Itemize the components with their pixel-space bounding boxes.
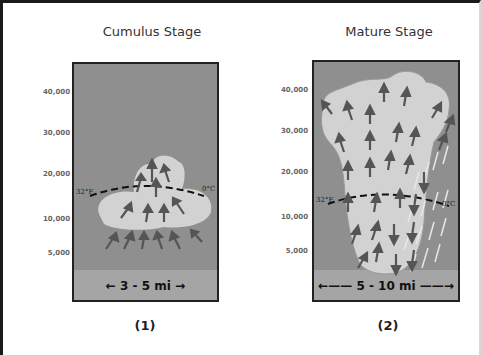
altitude-label-40000: 40,000: [268, 86, 308, 94]
freezing-label-c: 0°C: [442, 200, 455, 208]
altitude-label-10000: 10,000: [30, 215, 70, 223]
freezing-label-f: 32°F: [316, 196, 333, 204]
altitude-label-10000: 10,000: [268, 213, 308, 221]
altitude-label-20000: 20,000: [268, 168, 308, 176]
cumulus-cloud-illustration: 32°F 0°C: [74, 64, 219, 302]
altitude-label-30000: 30,000: [268, 127, 308, 135]
mature-stage-panel: 32°F 0°C: [312, 60, 460, 302]
altitude-label-20000: 20,000: [30, 170, 70, 178]
freezing-label-f: 32°F: [76, 188, 93, 196]
mature-cloud-illustration: 32°F 0°C: [314, 62, 460, 302]
mature-width-label: ←—— 5 - 10 mi ——→: [314, 279, 458, 293]
mature-stage-title: Mature Stage: [309, 24, 469, 39]
altitude-label-40000: 40,000: [30, 88, 70, 96]
freezing-label-c: 0°C: [202, 185, 215, 193]
cumulus-stage-panel: 32°F 0°C ← 3 - 5 mi →: [72, 62, 219, 302]
cumulus-caption: (1): [125, 318, 165, 333]
cumulus-stage-title: Cumulus Stage: [72, 24, 232, 39]
mature-caption: (2): [368, 318, 408, 333]
cumulus-width-label: ← 3 - 5 mi →: [74, 279, 217, 293]
altitude-label-5000: 5,000: [268, 247, 308, 255]
altitude-label-30000: 30,000: [30, 129, 70, 137]
mature-cloud: [321, 71, 449, 274]
altitude-label-5000: 5,000: [30, 249, 70, 257]
